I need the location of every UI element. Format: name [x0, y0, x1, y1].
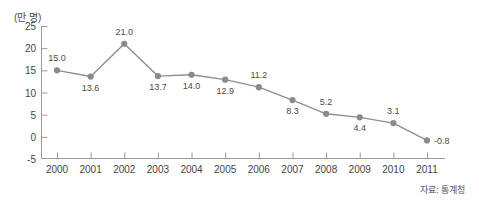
- y-axis-tick-label: 25: [10, 21, 36, 32]
- x-axis-tick-label: 2008: [315, 164, 337, 175]
- data-point-marker: [289, 97, 295, 103]
- y-axis-tick-label: 10: [10, 87, 36, 98]
- plot-area: [41, 26, 445, 159]
- data-point-marker: [121, 41, 127, 47]
- data-point-value-label: 4.4: [353, 123, 366, 133]
- data-point-value-label: 21.0: [116, 27, 134, 37]
- data-point-marker: [424, 137, 430, 143]
- x-axis-tick-label: 2011: [416, 164, 438, 175]
- line-chart-figure: (만 명) 2520151050-5 200020012002200320042…: [0, 0, 479, 205]
- y-axis-tick-label: 5: [10, 109, 36, 120]
- x-axis-tick-label: 2006: [248, 164, 270, 175]
- x-axis-tick-label: 2002: [113, 164, 135, 175]
- data-point-marker: [390, 120, 396, 126]
- data-point-value-label: 11.2: [250, 70, 267, 80]
- data-point-value-label: 15.0: [48, 53, 66, 63]
- source-note: 자료: 통계청: [420, 183, 465, 196]
- data-point-marker: [188, 72, 194, 78]
- data-point-value-label: 14.0: [183, 81, 201, 91]
- data-series-line: [57, 44, 427, 141]
- x-axis-tick-label: 2005: [214, 164, 236, 175]
- data-point-value-label: 13.7: [149, 82, 167, 92]
- y-axis-tick-label: 0: [10, 131, 36, 142]
- x-axis-tick-label: 2000: [46, 164, 68, 175]
- data-point-marker: [88, 73, 94, 79]
- data-point-value-label: 12.9: [216, 86, 234, 96]
- x-axis-tick-label: 2003: [147, 164, 169, 175]
- x-axis-tick-label: 2007: [281, 164, 303, 175]
- data-point-marker: [155, 73, 161, 79]
- x-axis-tick-label: 2010: [382, 164, 404, 175]
- data-point-marker: [222, 77, 228, 83]
- data-point-marker: [323, 111, 329, 117]
- data-point-marker: [54, 67, 60, 73]
- data-point-value-label: 8.3: [286, 106, 299, 116]
- y-axis-tick-label: 15: [10, 65, 36, 76]
- data-point-value-label: -0.8: [434, 136, 450, 146]
- x-axis-tick-label: 2001: [80, 164, 102, 175]
- x-axis-tick-label: 2004: [180, 164, 202, 175]
- data-point-value-label: 13.6: [82, 83, 100, 93]
- data-point-value-label: 3.1: [387, 106, 400, 116]
- y-axis-tick-label: -5: [10, 154, 36, 165]
- x-axis-tick-label: 2009: [349, 164, 371, 175]
- chart-svg: [41, 26, 445, 159]
- data-point-value-label: 5.2: [320, 97, 333, 107]
- data-point-marker: [357, 114, 363, 120]
- data-point-marker: [256, 84, 262, 90]
- y-axis-tick-label: 20: [10, 43, 36, 54]
